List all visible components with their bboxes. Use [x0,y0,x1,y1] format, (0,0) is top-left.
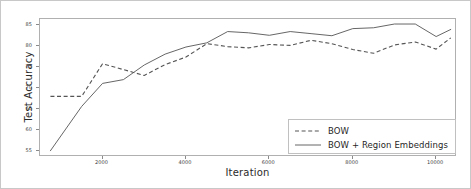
x-axis-tick-label: 10000 [427,159,443,165]
y-axis-tick-mark [36,108,39,109]
y-axis-tick-label: 75 [2,63,32,69]
x-axis-tick-label: 4000 [178,159,191,165]
x-axis-tick-mark [102,156,103,159]
legend-item-bow: BOW [295,124,449,138]
x-axis-tick-mark [185,156,186,159]
x-axis-label: Iteration [39,167,456,178]
x-axis-tick-label: 6000 [262,159,275,165]
x-axis-tick-mark [435,156,436,159]
y-axis-tick-label: 70 [2,84,32,90]
y-axis-tick-mark [36,87,39,88]
y-axis-tick-label: 80 [2,42,32,48]
chart-figure: Test Accuracy Iteration BOW BOW + Regio [0,0,471,189]
y-axis-tick-label: 65 [2,105,32,111]
x-axis-tick-mark [352,156,353,159]
legend-item-bow-region-embeddings: BOW + Region Embeddings [295,138,449,152]
x-axis-tick-mark [268,156,269,159]
series-line-bow [50,38,450,97]
legend-swatch-solid [295,142,321,148]
y-axis-tick-mark [36,24,39,25]
y-axis-tick-mark [36,150,39,151]
x-axis-tick-label: 2000 [95,159,108,165]
y-axis-tick-mark [36,66,39,67]
y-axis-tick-label: 55 [2,147,32,153]
x-axis-tick-label: 8000 [345,159,358,165]
legend-label-bow: BOW [328,126,349,136]
y-axis-tick-mark [36,129,39,130]
legend-swatch-dashed [295,128,321,134]
y-axis-tick-mark [36,45,39,46]
y-axis-tick-label: 85 [2,21,32,27]
chart-legend: BOW BOW + Region Embeddings [288,119,456,154]
y-axis-tick-label: 60 [2,126,32,132]
legend-label-bow-region-embeddings: BOW + Region Embeddings [328,140,448,150]
